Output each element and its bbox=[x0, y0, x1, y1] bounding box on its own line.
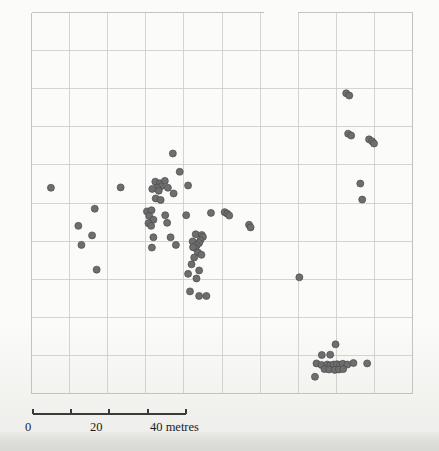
data-point bbox=[47, 184, 54, 191]
data-point bbox=[91, 205, 98, 212]
data-point bbox=[155, 187, 162, 194]
data-point bbox=[311, 373, 318, 380]
data-point bbox=[196, 292, 203, 299]
scale-tick-label-0: 0 bbox=[25, 420, 31, 435]
data-point bbox=[296, 274, 303, 281]
data-point bbox=[207, 209, 214, 216]
data-point bbox=[149, 185, 156, 192]
scale-tick-label-40-metres: 40 metres bbox=[150, 420, 199, 435]
data-point bbox=[185, 270, 192, 277]
data-point bbox=[332, 341, 339, 348]
data-point bbox=[164, 184, 171, 191]
data-point bbox=[364, 360, 371, 367]
data-point bbox=[75, 222, 82, 229]
data-point bbox=[196, 267, 203, 274]
data-point bbox=[78, 241, 85, 248]
data-point bbox=[371, 140, 378, 147]
data-point bbox=[198, 251, 205, 258]
data-point bbox=[226, 212, 233, 219]
data-point bbox=[318, 352, 325, 359]
data-point bbox=[170, 190, 177, 197]
data-point bbox=[191, 254, 198, 261]
data-point bbox=[169, 150, 176, 157]
plot-canvas bbox=[0, 0, 439, 400]
data-point bbox=[172, 241, 179, 248]
data-point bbox=[117, 184, 124, 191]
data-point bbox=[93, 266, 100, 273]
scale-tick-label-20: 20 bbox=[90, 420, 103, 435]
data-point bbox=[203, 292, 210, 299]
data-point bbox=[348, 132, 355, 139]
data-point bbox=[327, 351, 334, 358]
data-point bbox=[340, 366, 347, 373]
data-point bbox=[148, 244, 155, 251]
grid-lines bbox=[32, 13, 413, 394]
data-point bbox=[359, 196, 366, 203]
data-point bbox=[357, 180, 364, 187]
figure-page: 0 20 40 metres bbox=[0, 0, 439, 451]
data-point bbox=[346, 92, 353, 99]
data-points bbox=[47, 90, 377, 380]
data-point bbox=[247, 224, 254, 231]
data-point bbox=[167, 234, 174, 241]
data-point bbox=[150, 234, 157, 241]
scatter-plot bbox=[0, 0, 439, 400]
data-point bbox=[193, 275, 200, 282]
data-point bbox=[89, 232, 96, 239]
data-point bbox=[148, 222, 155, 229]
data-point bbox=[188, 261, 195, 268]
data-point bbox=[183, 212, 190, 219]
data-point bbox=[187, 288, 194, 295]
data-point bbox=[185, 182, 192, 189]
data-point bbox=[164, 219, 171, 226]
data-point bbox=[176, 168, 183, 175]
data-point bbox=[350, 360, 357, 367]
data-point bbox=[162, 212, 169, 219]
scale-bar: 0 20 40 metres bbox=[28, 406, 228, 446]
data-point bbox=[157, 196, 164, 203]
